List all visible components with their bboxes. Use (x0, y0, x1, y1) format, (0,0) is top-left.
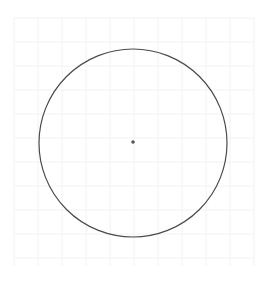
circle-diagram (0, 0, 267, 283)
center-point (131, 140, 135, 144)
